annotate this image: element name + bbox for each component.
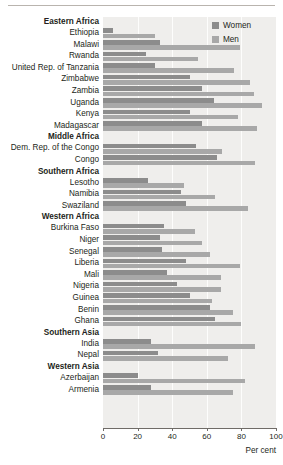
- bar-women: [103, 293, 190, 298]
- row-label: Ethiopia: [0, 28, 99, 37]
- chart-bar-row: Armenia: [0, 385, 283, 397]
- chart-group-header: Western Asia: [0, 362, 283, 373]
- row-label: Zimbabwe: [0, 74, 99, 83]
- legend-label-men: Men: [223, 34, 239, 45]
- row-label: United Rep. of Tanzania: [0, 63, 99, 72]
- row-label: Western Asia: [0, 362, 99, 371]
- chart-bar-row: Congo: [0, 155, 283, 167]
- bar-women: [103, 224, 164, 229]
- bar-women: [103, 247, 162, 252]
- bar-men: [103, 379, 245, 384]
- row-label: Azerbaijan: [0, 373, 99, 382]
- chart-bar-row: Namibia: [0, 189, 283, 201]
- bar-men: [103, 195, 215, 200]
- x-tick-label: 80: [237, 432, 246, 441]
- x-tick-label: 60: [202, 432, 211, 441]
- bar-women: [103, 110, 190, 115]
- chart-bar-row: United Rep. of Tanzania: [0, 63, 283, 75]
- chart-bar-row: Nigeria: [0, 281, 283, 293]
- chart-bar-row: Rwanda: [0, 51, 283, 63]
- bar-women: [103, 190, 181, 195]
- bar-women: [103, 317, 215, 322]
- x-tick-label: 40: [168, 432, 177, 441]
- chart-rows: Eastern AfricaEthiopiaMalawiRwandaUnited…: [0, 17, 283, 428]
- bar-men: [103, 241, 202, 246]
- x-tick: [276, 428, 277, 431]
- bar-men: [103, 229, 195, 234]
- bar-men: [103, 356, 228, 361]
- row-label: Swaziland: [0, 201, 99, 210]
- bar-women: [103, 40, 160, 45]
- bar-women: [103, 75, 190, 80]
- x-tick-label: 0: [101, 432, 105, 441]
- chart-bar-row: India: [0, 339, 283, 351]
- bar-men: [103, 264, 240, 269]
- row-label: Madagascar: [0, 121, 99, 130]
- chart-group-header: Southern Africa: [0, 167, 283, 178]
- bar-men: [103, 80, 250, 85]
- chart-bar-row: Burkina Faso: [0, 223, 283, 235]
- row-label: Malawi: [0, 40, 99, 49]
- row-label: Senegal: [0, 247, 99, 256]
- legend-item-women: Women: [212, 20, 251, 31]
- chart-bar-row: Zambia: [0, 86, 283, 98]
- chart-legend: Women Men: [212, 20, 251, 48]
- bar-women: [103, 385, 151, 390]
- legend-label-women: Women: [223, 20, 251, 31]
- row-label: Mali: [0, 270, 99, 279]
- row-label: Congo: [0, 155, 99, 164]
- chart-bar-row: Dem. Rep. of the Congo: [0, 143, 283, 155]
- chart-bar-row: Uganda: [0, 98, 283, 110]
- row-label: Armenia: [0, 385, 99, 394]
- chart-bar-row: Benin: [0, 305, 283, 317]
- row-label: Dem. Rep. of the Congo: [0, 143, 99, 152]
- row-label: Western Africa: [0, 212, 99, 221]
- row-label: Zambia: [0, 86, 99, 95]
- row-label: Nigeria: [0, 281, 99, 290]
- row-label: Middle Africa: [0, 132, 99, 141]
- bar-women: [103, 339, 151, 344]
- x-tick: [138, 428, 139, 431]
- bar-women: [103, 121, 202, 126]
- row-label: India: [0, 339, 99, 348]
- chart-bar-row: Guinea: [0, 293, 283, 305]
- chart-bar-row: Zimbabwe: [0, 74, 283, 86]
- chart-bar-row: Azerbaijan: [0, 373, 283, 385]
- bar-women: [103, 270, 167, 275]
- x-tick: [241, 428, 242, 431]
- row-label: Eastern Africa: [0, 17, 99, 26]
- row-label: Liberia: [0, 258, 99, 267]
- bar-women: [103, 86, 202, 91]
- bar-women: [103, 235, 160, 240]
- bar-men: [103, 310, 233, 315]
- bar-women: [103, 28, 113, 33]
- bar-men: [103, 115, 238, 120]
- chart-group-header: Middle Africa: [0, 132, 283, 143]
- x-tick: [103, 428, 104, 431]
- bar-women: [103, 63, 155, 68]
- bar-women: [103, 305, 210, 310]
- bar-women: [103, 52, 146, 57]
- chart-group-header: Southern Asia: [0, 328, 283, 339]
- bar-men: [103, 161, 255, 166]
- row-label: Rwanda: [0, 51, 99, 60]
- bar-men: [103, 390, 233, 395]
- bar-men: [103, 103, 262, 108]
- chart-bar-row: Niger: [0, 235, 283, 247]
- bar-men: [103, 92, 254, 97]
- chart-bar-row: Mali: [0, 270, 283, 282]
- row-label: Uganda: [0, 98, 99, 107]
- bar-men: [103, 149, 222, 154]
- row-label: Namibia: [0, 189, 99, 198]
- row-label: Nepal: [0, 350, 99, 359]
- row-label: Ghana: [0, 316, 99, 325]
- x-tick-label: 20: [133, 432, 142, 441]
- bar-women: [103, 259, 186, 264]
- bar-women: [103, 282, 177, 287]
- bar-women: [103, 155, 217, 160]
- chart-bar-row: Swaziland: [0, 201, 283, 213]
- row-label: Kenya: [0, 109, 99, 118]
- chart-group-header: Western Africa: [0, 212, 283, 223]
- bar-women: [103, 351, 158, 356]
- chart-bar-row: Senegal: [0, 247, 283, 259]
